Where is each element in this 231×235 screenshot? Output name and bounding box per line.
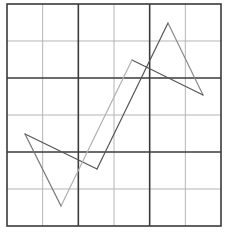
shape-segment bbox=[97, 23, 168, 169]
grid-lines bbox=[7, 4, 221, 226]
shape-segment bbox=[61, 60, 132, 206]
grid-diagram bbox=[0, 0, 231, 235]
